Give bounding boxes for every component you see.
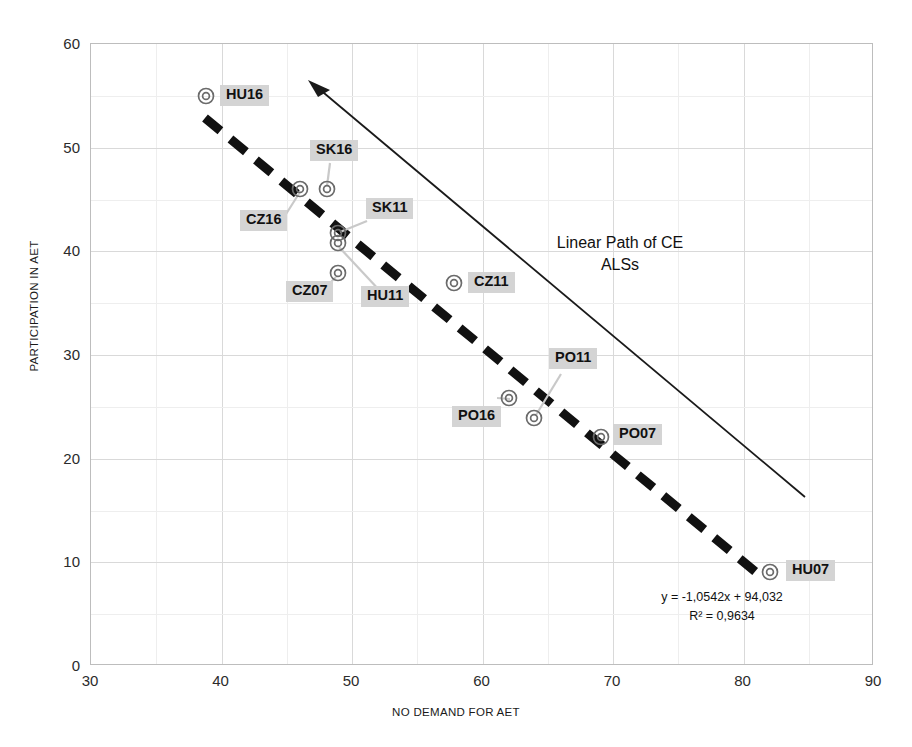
- point-label-hu07: HU07: [786, 560, 835, 581]
- linear-path-annotation: Linear Path of CE ALSs: [520, 232, 720, 275]
- point-PO11: [527, 411, 542, 426]
- trendline-dashed: [205, 118, 763, 578]
- point-CZ11: [447, 276, 462, 291]
- regression-equation-block: y = -1,0542x + 94,032 R² = 0,9634: [612, 588, 832, 626]
- linear-path-line1: Linear Path of CE: [520, 232, 720, 254]
- data-points: [199, 89, 778, 580]
- leader-po16: [497, 398, 510, 399]
- point-label-po16: PO16: [452, 406, 501, 427]
- point-label-hu16: HU16: [220, 85, 269, 106]
- point-label-cz07: CZ07: [286, 281, 333, 302]
- point-label-po07: PO07: [613, 424, 662, 445]
- point-HU11: [331, 236, 346, 251]
- point-label-sk11: SK11: [366, 198, 413, 219]
- scatter-chart: 60 50 40 30 20 10 0 30 40 50 60 70 80 90…: [0, 0, 912, 747]
- point-label-cz16: CZ16: [240, 210, 287, 231]
- point-label-hu11: HU11: [361, 286, 409, 307]
- point-CZ07: [331, 266, 346, 281]
- regression-r-squared: R² = 0,9634: [612, 607, 832, 626]
- chart-overlay: [0, 0, 912, 747]
- point-label-po11: PO11: [549, 348, 597, 369]
- linear-path-line2: ALSs: [520, 254, 720, 276]
- leader-sk11: [340, 221, 367, 232]
- point-label-cz11: CZ11: [468, 272, 515, 293]
- regression-equation: y = -1,0542x + 94,032: [612, 588, 832, 607]
- point-HU07: [763, 565, 778, 580]
- point-HU16: [199, 89, 214, 104]
- point-label-sk16: SK16: [310, 140, 358, 161]
